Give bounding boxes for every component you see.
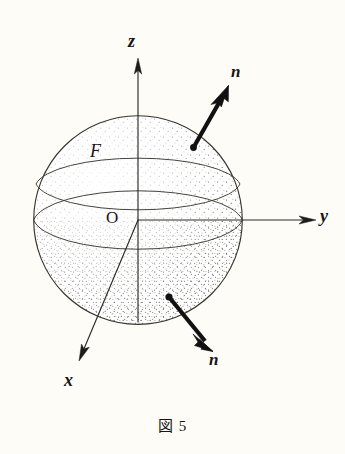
origin-label: O bbox=[106, 209, 118, 226]
figure-caption: 図 5 bbox=[0, 414, 345, 435]
figure-page: z y x O F n n 図 5 bbox=[0, 0, 345, 454]
normal-upper-label: n bbox=[231, 63, 240, 80]
normal-upper-base-point bbox=[190, 144, 197, 151]
x-axis-label: x bbox=[64, 371, 73, 389]
normal-lower-base-point bbox=[165, 293, 172, 300]
sphere-stipple bbox=[30, 112, 248, 332]
sphere-body bbox=[30, 112, 248, 332]
normal-vector-upper bbox=[190, 86, 228, 151]
z-axis-label: z bbox=[128, 32, 135, 50]
y-axis-label: y bbox=[320, 207, 328, 225]
normal-lower-label: n bbox=[209, 351, 218, 368]
surface-label: F bbox=[90, 142, 101, 160]
sphere-diagram-svg bbox=[0, 0, 345, 454]
x-axis-arrowhead bbox=[79, 344, 89, 361]
